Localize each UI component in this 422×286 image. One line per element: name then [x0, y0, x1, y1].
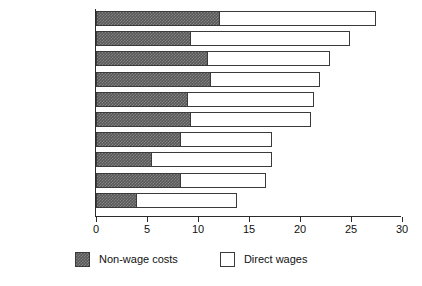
bar-segment-non-wage-costs [96, 31, 190, 46]
stacked-bar [96, 112, 311, 127]
x-tick [300, 217, 301, 222]
chart-row: Japan [96, 91, 402, 111]
stacked-bar [96, 132, 272, 147]
x-tick-label: 0 [81, 223, 111, 235]
x-tick [402, 217, 403, 222]
x-axis-line [95, 216, 401, 217]
bar-segment-direct-wages [187, 92, 315, 107]
stacked-bar [96, 193, 237, 208]
x-tick-label: 10 [183, 223, 213, 235]
x-tick [249, 217, 250, 222]
legend-swatch-direct-wages [220, 252, 235, 267]
bar-segment-non-wage-costs [96, 112, 190, 127]
chart-row: Italy [96, 172, 402, 192]
x-tick [96, 217, 97, 222]
bar-segment-direct-wages [210, 72, 320, 87]
bar-segment-direct-wages [190, 31, 350, 46]
stacked-bar [96, 173, 266, 188]
bar-segment-non-wage-costs [96, 152, 151, 167]
bar-segment-non-wage-costs [96, 51, 207, 66]
bar-segment-non-wage-costs [96, 173, 180, 188]
chart-legend: Non-wage costs Direct wages [75, 252, 307, 267]
stacked-bar [96, 92, 314, 107]
bar-segment-direct-wages [207, 51, 329, 66]
legend-label-direct-wages: Direct wages [244, 253, 308, 266]
legend-swatch-non-wage-costs [75, 252, 90, 267]
x-tick [198, 217, 199, 222]
x-tick-label: 20 [285, 223, 315, 235]
chart-row: West Germany [96, 10, 402, 30]
chart-row: Britain [96, 192, 402, 212]
chart-row: Austria [96, 71, 402, 91]
legend-item-non-wage-costs: Non-wage costs [75, 252, 178, 267]
x-tick-label: 25 [336, 223, 366, 235]
x-tick-label: 5 [132, 223, 162, 235]
bar-segment-non-wage-costs [96, 11, 219, 26]
bar-segment-non-wage-costs [96, 193, 136, 208]
x-tick [147, 217, 148, 222]
bar-segment-direct-wages [180, 173, 267, 188]
legend-item-direct-wages: Direct wages [220, 252, 308, 267]
chart-row: United States [96, 151, 402, 171]
x-tick [351, 217, 352, 222]
chart-row: Belgium [96, 50, 402, 70]
stacked-bar [96, 152, 272, 167]
stacked-bar [96, 72, 320, 87]
bar-segment-non-wage-costs [96, 132, 180, 147]
bar-segment-direct-wages [180, 132, 273, 147]
x-tick-label: 15 [234, 223, 264, 235]
chart-row: France [96, 131, 402, 151]
bar-segment-direct-wages [190, 112, 311, 127]
bar-segment-direct-wages [151, 152, 272, 167]
bar-segment-non-wage-costs [96, 72, 210, 87]
plot-area: West GermanySwitzerlandBelgiumAustriaJap… [96, 10, 402, 215]
chart-row: Holland [96, 111, 402, 131]
bar-segment-direct-wages [136, 193, 237, 208]
stacked-bar [96, 11, 376, 26]
chart-row: Switzerland [96, 30, 402, 50]
bar-chart: 051015202530 West GermanySwitzerlandBelg… [0, 0, 422, 286]
legend-label-non-wage-costs: Non-wage costs [99, 253, 178, 266]
stacked-bar [96, 31, 350, 46]
bar-segment-non-wage-costs [96, 92, 187, 107]
stacked-bar [96, 51, 330, 66]
bar-segment-direct-wages [219, 11, 376, 26]
x-tick-label: 30 [387, 223, 417, 235]
